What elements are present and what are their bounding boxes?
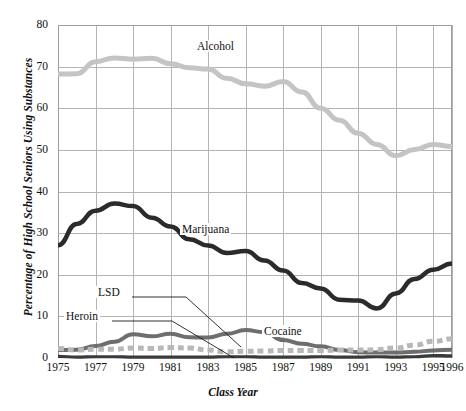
gridline-vertical <box>452 25 453 358</box>
y-tick-label: 60 <box>14 102 48 114</box>
x-tick-label: 1996 <box>434 362 466 374</box>
leader-lines <box>58 25 452 358</box>
x-tick-label: 1981 <box>153 362 189 374</box>
x-tick-label: 1989 <box>303 362 339 374</box>
x-tick-label: 1991 <box>340 362 376 374</box>
series-label-marijuana: Marijuana <box>180 223 231 235</box>
series-label-lsd: LSD <box>96 286 122 298</box>
y-tick-label: 40 <box>14 186 48 198</box>
x-axis-title: Class Year <box>0 386 466 398</box>
y-tick-label: 70 <box>14 61 48 73</box>
y-tick-label: 50 <box>14 144 48 156</box>
y-tick-label: 80 <box>14 19 48 31</box>
plot-area <box>58 25 452 358</box>
series-label-heroin: Heroin <box>64 310 100 322</box>
x-tick-label: 1977 <box>78 362 114 374</box>
y-tick-label: 10 <box>14 310 48 322</box>
series-label-alcohol: Alcohol <box>195 40 236 52</box>
x-tick-label: 1983 <box>190 362 226 374</box>
series-label-cocaine: Cocaine <box>262 325 304 337</box>
x-tick-label: 1979 <box>115 362 151 374</box>
substance-use-line-chart: Percentage of High School Seniors Using … <box>0 0 466 411</box>
x-tick-label: 1975 <box>40 362 76 374</box>
x-tick-label: 1985 <box>228 362 264 374</box>
x-tick-label: 1993 <box>378 362 414 374</box>
leader-line-heroin <box>172 321 234 358</box>
y-tick-label: 20 <box>14 269 48 281</box>
leader-line-lsd <box>186 297 241 347</box>
y-tick-label: 30 <box>14 227 48 239</box>
x-tick-label: 1987 <box>265 362 301 374</box>
